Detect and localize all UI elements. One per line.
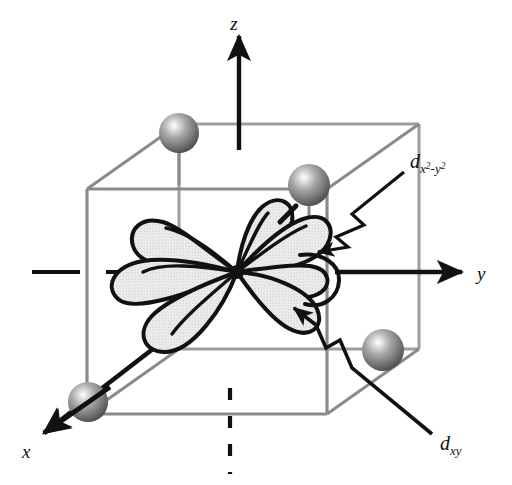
ligand-sphere-bottom-front-right (362, 329, 404, 371)
orbital-lobe-cluster (112, 200, 339, 352)
axis-z: z (229, 13, 239, 150)
callout-dx2y2-label: dx2-y2 (410, 150, 446, 176)
ligand-sphere-top-back-left (159, 113, 199, 153)
axis-x-label: x (21, 441, 31, 462)
callout-dx2y2-label-sup2: 2 (441, 161, 446, 171)
axis-z-label: z (229, 13, 238, 34)
axis-y-label: y (475, 263, 486, 284)
ligand-sphere-top-back-right (288, 164, 330, 206)
callout-dxy-label-xy: xy (449, 443, 462, 458)
orbital-cube-figure: z y x (0, 0, 512, 485)
callout-dx2y2: dx2-y2 (318, 150, 446, 252)
cube-edge-connect-top-right (327, 124, 419, 189)
orbital-center-nucleus (230, 265, 244, 279)
axis-y: y (335, 263, 486, 284)
callout-dxy-label: dxy (440, 432, 462, 458)
figure-canvas: z y x (0, 0, 512, 485)
